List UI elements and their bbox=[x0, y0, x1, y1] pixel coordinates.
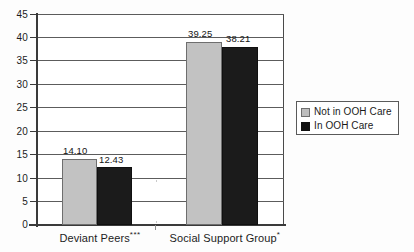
x-axis-label-deviant-peers-significance: *** bbox=[130, 230, 141, 239]
y-tick-label-35: 35 bbox=[4, 56, 28, 66]
y-tick-mark-20 bbox=[30, 131, 37, 132]
y-tick-mark-30 bbox=[30, 84, 37, 85]
y-tick-label-30: 30 bbox=[4, 80, 28, 90]
y-axis-line bbox=[36, 13, 38, 227]
legend-label-not-in-ooh-care: Not in OOH Care bbox=[314, 107, 392, 117]
x-axis-label-deviant-peers: Deviant Peers*** bbox=[52, 230, 148, 244]
x-axis-label-deviant-peers-text: Deviant Peers bbox=[59, 232, 129, 244]
bar-chart: 45 40 35 30 25 20 15 10 5 0 14.10 12.43 … bbox=[0, 0, 414, 252]
y-tick-label-0: 0 bbox=[4, 220, 28, 230]
y-tick-label-45: 45 bbox=[4, 10, 28, 20]
bar-value-social-support-not-in-care: 39.25 bbox=[188, 29, 212, 39]
bar-deviant-peers-not-in-care bbox=[62, 159, 97, 225]
legend: Not in OOH Care In OOH Care bbox=[296, 101, 399, 135]
legend-item-in-ooh-care: In OOH Care bbox=[301, 119, 394, 133]
y-tick-label-10: 10 bbox=[4, 174, 28, 184]
category-separator-tick bbox=[155, 225, 156, 230]
y-tick-mark-25 bbox=[30, 107, 37, 108]
y-tick-label-40: 40 bbox=[4, 33, 28, 43]
x-axis-label-social-support-group: Social Support Group* bbox=[160, 230, 290, 244]
x-axis-label-social-support-group-text: Social Support Group bbox=[170, 232, 277, 244]
y-tick-mark-10 bbox=[30, 178, 37, 179]
bar-deviant-peers-in-care bbox=[97, 167, 132, 225]
y-tick-label-25: 25 bbox=[4, 103, 28, 113]
y-tick-mark-5 bbox=[30, 201, 37, 202]
bar-social-support-in-care bbox=[222, 47, 258, 225]
y-tick-label-15: 15 bbox=[4, 150, 28, 160]
y-tick-mark-15 bbox=[30, 154, 37, 155]
y-tick-label-5: 5 bbox=[4, 197, 28, 207]
y-tick-mark-35 bbox=[30, 60, 37, 61]
bar-value-deviant-peers-not-in-care: 14.10 bbox=[63, 146, 87, 156]
legend-item-not-in-ooh-care: Not in OOH Care bbox=[301, 105, 394, 119]
bar-value-social-support-in-care: 38.21 bbox=[226, 34, 250, 44]
y-tick-mark-0 bbox=[30, 224, 37, 225]
y-tick-mark-40 bbox=[30, 37, 37, 38]
y-tick-label-20: 20 bbox=[4, 127, 28, 137]
x-axis-label-social-support-group-significance: * bbox=[277, 230, 281, 239]
legend-swatch-light-gray-icon bbox=[301, 108, 310, 117]
bar-value-deviant-peers-in-care: 12.43 bbox=[99, 155, 123, 165]
scan-speckle bbox=[156, 180, 157, 182]
legend-label-in-ooh-care: In OOH Care bbox=[314, 121, 373, 131]
scan-speckle bbox=[156, 221, 157, 223]
legend-swatch-black-icon bbox=[301, 122, 310, 131]
bar-social-support-not-in-care bbox=[186, 42, 222, 225]
y-tick-mark-45 bbox=[30, 14, 37, 15]
gridline-45 bbox=[36, 14, 284, 15]
